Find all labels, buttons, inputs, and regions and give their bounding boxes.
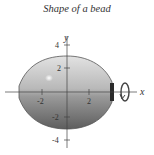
bead-diagram: y x 4 2 -2 -4 -2 2 <box>0 0 154 155</box>
y-tick-label: -2 <box>52 113 59 122</box>
y-tick-label: -4 <box>52 136 59 145</box>
bead-shape <box>19 56 114 129</box>
y-tick-label: 4 <box>55 41 59 50</box>
y-axis-label: y <box>63 32 69 43</box>
x-tick-label: -2 <box>37 97 44 106</box>
y-tick-label: 2 <box>57 64 61 73</box>
x-axis-label: x <box>139 86 145 97</box>
x-tick-label: 2 <box>87 97 91 106</box>
highlight <box>45 75 53 82</box>
